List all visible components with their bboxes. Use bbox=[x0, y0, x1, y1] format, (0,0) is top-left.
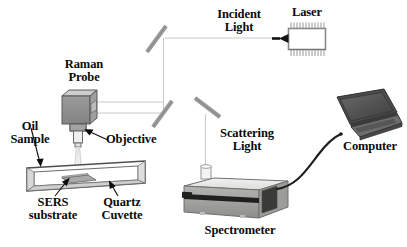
diagram-canvas: Incident Light Laser Raman Probe Objecti… bbox=[0, 0, 407, 247]
computer bbox=[337, 89, 402, 140]
label-laser: Laser bbox=[284, 6, 330, 19]
mirror-3 bbox=[195, 98, 220, 117]
mirror-2 bbox=[153, 101, 172, 127]
label-quartz-cuvette: Quartz Cuvette bbox=[87, 196, 157, 222]
label-objective: Objective bbox=[106, 133, 180, 146]
label-spectrometer: Spectrometer bbox=[190, 224, 290, 237]
spectrometer bbox=[182, 165, 288, 218]
label-computer: Computer bbox=[334, 140, 406, 153]
objective bbox=[74, 131, 83, 147]
label-scattering-light: Scattering Light bbox=[203, 127, 291, 153]
label-oil-sample: Oil Sample bbox=[0, 120, 60, 146]
label-incident-light: Incident Light bbox=[193, 8, 285, 34]
label-sers-substrate: SERS substrate bbox=[13, 196, 93, 222]
probe-beam bbox=[95, 102, 164, 113]
raman-probe bbox=[62, 90, 97, 131]
label-raman-probe: Raman Probe bbox=[48, 58, 120, 84]
